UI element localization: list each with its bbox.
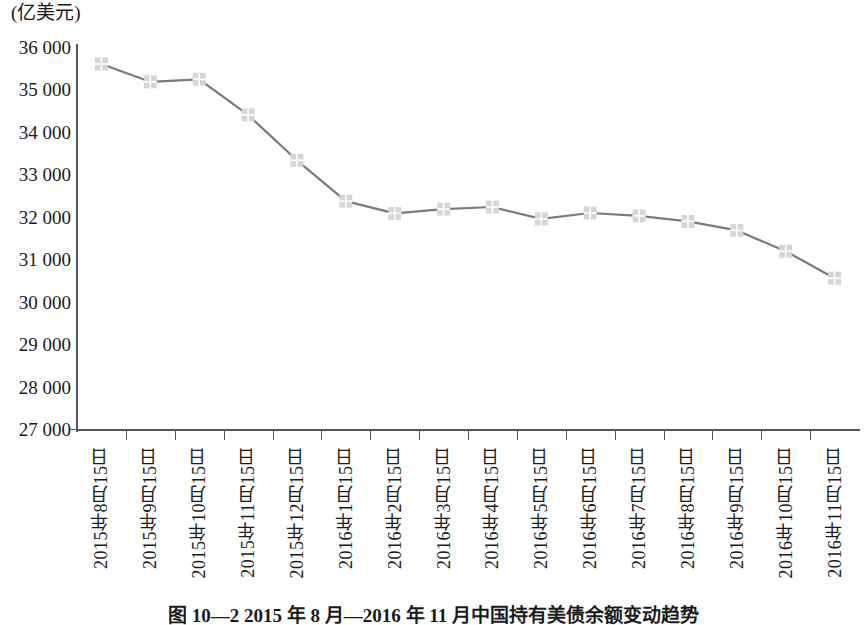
x-axis-tick-mark [175,431,176,440]
data-point-marker [486,201,499,214]
data-point-marker [730,224,743,237]
data-point-marker [339,195,352,208]
x-axis-tick-mark [419,431,420,440]
data-point-marker [779,245,792,258]
x-axis-tick-mark [615,431,616,440]
data-point-marker [242,108,255,121]
x-axis-tick-label: 2016年4月15日 [482,447,502,569]
x-axis-tick-label: 2016年2月15日 [385,447,405,569]
x-axis-tick-label: 2016年6月15日 [580,447,600,569]
x-axis-tick-mark [712,431,713,440]
x-axis-tick-label: 2015年8月15日 [91,447,111,569]
data-point-marker [290,154,303,167]
x-axis-tick-mark [370,431,371,440]
data-point-marker [388,207,401,220]
data-point-marker [535,212,548,225]
x-axis-tick-mark [810,431,811,440]
x-axis-tick-label: 2016年1月15日 [336,447,356,569]
x-axis-tick-label: 2016年10月15日 [776,447,796,579]
figure-caption: 图 10—2 2015 年 8 月—2016 年 11 月中国持有美债余额变动趋… [0,604,867,625]
series-markers [95,58,841,285]
x-axis-tick-mark [761,431,762,440]
x-axis-tick-label: 2016年7月15日 [629,447,649,569]
x-axis-tick-mark [224,431,225,440]
x-axis-tick-mark [517,431,518,440]
data-point-marker [95,58,108,71]
x-axis-tick-label: 2016年8月15日 [678,447,698,569]
data-point-marker [584,207,597,220]
x-axis-tick-label: 2015年12月15日 [287,447,307,579]
series-line [101,64,834,278]
x-axis-tick-label: 2016年11月15日 [825,447,845,578]
x-axis-tick-mark [566,431,567,440]
x-axis-tick-mark [126,431,127,440]
x-axis-tick-label: 2015年10月15日 [189,447,209,579]
x-axis-tick-label: 2016年9月15日 [727,447,747,569]
x-axis-tick-mark [273,431,274,440]
data-point-marker [828,272,841,285]
x-axis-tick-label: 2016年3月15日 [434,447,454,569]
x-axis-tick-label: 2016年5月15日 [531,447,551,569]
data-point-marker [193,73,206,86]
chart-figure: (亿美元) 36 00035 00034 00033 00032 00031 0… [0,0,867,625]
data-point-marker [144,75,157,88]
x-axis-tick-label: 2015年11月15日 [238,447,258,578]
data-point-marker [633,209,646,222]
data-point-marker [681,215,694,228]
x-axis-tick-mark [468,431,469,440]
x-axis-tick-mark [321,431,322,440]
data-point-marker [437,203,450,216]
x-axis-tick-label: 2015年9月15日 [140,447,160,569]
x-axis-tick-mark [664,431,665,440]
